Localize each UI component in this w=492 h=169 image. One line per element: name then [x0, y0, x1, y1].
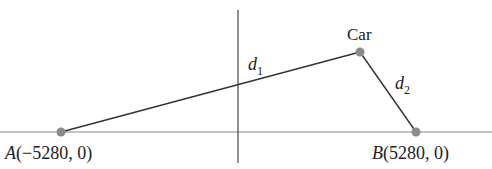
- label-d2: d2: [395, 73, 410, 97]
- label-d1-subscript: 1: [257, 64, 263, 78]
- diagram-canvas: Car d1 d2 A(−5280, 0) B(5280, 0): [0, 0, 492, 169]
- segment-d1: [61, 52, 360, 132]
- label-point-b-coords: (5280, 0): [383, 143, 449, 164]
- point-a: [57, 128, 66, 137]
- point-b: [412, 128, 421, 137]
- label-car: Car: [347, 25, 372, 44]
- label-d2-subscript: 2: [404, 83, 410, 97]
- label-d1: d1: [248, 54, 263, 78]
- point-car: [356, 48, 365, 57]
- label-point-b-name: B: [372, 143, 383, 163]
- label-point-a-coords: (−5280, 0): [16, 143, 92, 164]
- label-point-a: A(−5280, 0): [4, 143, 92, 164]
- label-point-b: B(5280, 0): [372, 143, 449, 164]
